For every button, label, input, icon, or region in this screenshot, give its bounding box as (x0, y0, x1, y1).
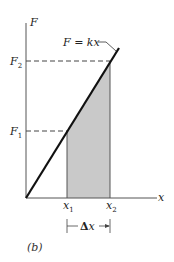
x2-tick-label: x2 (106, 199, 117, 214)
f2-tick-label: F2 (9, 55, 22, 70)
f1-tick-label: F1 (9, 125, 22, 140)
arrowhead-right-icon (105, 224, 110, 228)
figure-caption: (b) (27, 241, 43, 254)
delta-x-label: Δx (80, 220, 96, 233)
y-axis-label: F (29, 16, 38, 29)
shaded-work-area (67, 61, 110, 198)
equation-label: F = kx (62, 36, 101, 49)
equation-leader (98, 42, 116, 51)
x1-tick-label: x1 (63, 199, 74, 214)
work-diagram: F = kx F x F2 F1 x1 x2 Δx (b) (0, 0, 174, 262)
x-axis-label: x (158, 191, 165, 204)
